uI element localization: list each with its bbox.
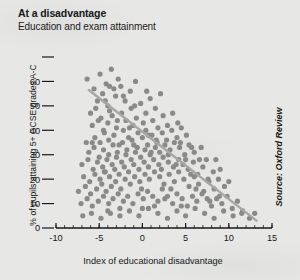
y-axis-ticks: [42, 57, 54, 228]
scatter-plot: 0102030405060 -10-5051015: [0, 0, 300, 280]
svg-text:40: 40: [30, 126, 40, 136]
svg-text:30: 30: [30, 150, 40, 160]
svg-text:0: 0: [140, 233, 145, 243]
x-axis-tick-labels: -10-5051015: [49, 233, 277, 243]
svg-text:0: 0: [35, 223, 40, 233]
svg-text:20: 20: [30, 175, 40, 185]
svg-text:10: 10: [224, 233, 234, 243]
scatter-points: [76, 67, 257, 221]
y-axis-tick-labels: 0102030405060: [30, 77, 40, 234]
svg-text:50: 50: [30, 101, 40, 111]
svg-text:15: 15: [267, 233, 277, 243]
svg-text:-10: -10: [49, 233, 62, 243]
svg-text:60: 60: [30, 77, 40, 87]
svg-text:-5: -5: [95, 233, 103, 243]
x-axis-ticks: [56, 223, 272, 228]
svg-text:10: 10: [30, 199, 40, 209]
svg-text:5: 5: [183, 233, 188, 243]
chart-figure: At a disadvantage Education and exam att…: [0, 0, 300, 280]
